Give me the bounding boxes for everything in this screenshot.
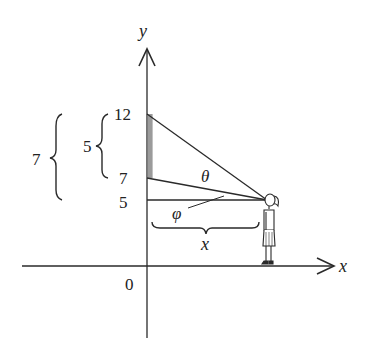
- inner-brace: [96, 114, 108, 178]
- tick-label-7: 7: [119, 169, 128, 188]
- distance-label: x: [200, 234, 209, 254]
- tick-label-12: 12: [114, 105, 131, 124]
- phi-label: φ: [172, 204, 181, 223]
- phi-pointer-line: [188, 196, 224, 208]
- origin-label: 0: [125, 275, 134, 294]
- y-axis: [139, 49, 155, 338]
- x-axis-label: x: [338, 256, 347, 276]
- observer-figure-icon: [262, 194, 279, 264]
- sight-line-top: [147, 114, 267, 200]
- y-axis-label: y: [137, 21, 147, 41]
- screen-shaded-region: [148, 114, 153, 178]
- inner-brace-label: 5: [83, 137, 92, 156]
- x-axis: [22, 258, 334, 274]
- outer-brace: [50, 114, 62, 200]
- outer-brace-label: 7: [32, 150, 41, 169]
- viewing-angle-diagram: y x 0 12 7 5 7 5 θ φ x: [0, 0, 366, 346]
- sight-lines: [147, 114, 267, 208]
- theta-label: θ: [201, 167, 209, 186]
- distance-brace: [152, 222, 259, 234]
- tick-label-5: 5: [119, 193, 128, 212]
